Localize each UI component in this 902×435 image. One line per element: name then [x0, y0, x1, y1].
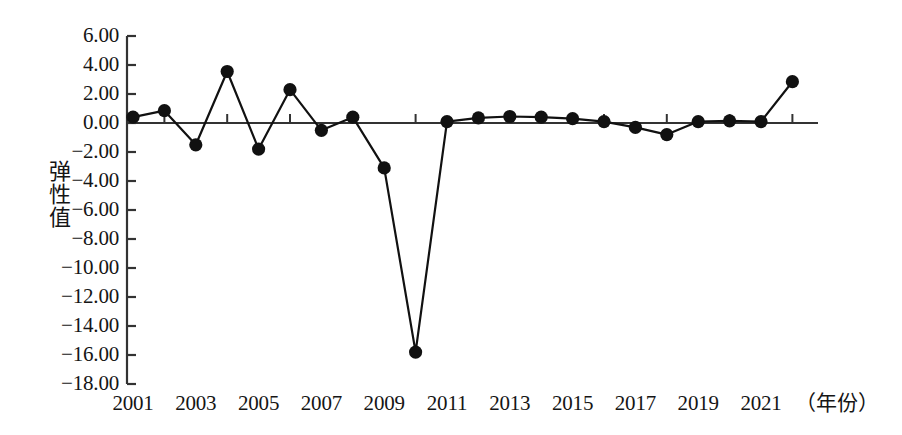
data-point-marker: [221, 65, 234, 78]
y-tick-label: −12.00: [15, 286, 119, 307]
data-point-marker: [597, 115, 610, 128]
data-point-marker: [786, 75, 799, 88]
y-tick-label: −16.00: [15, 344, 119, 365]
y-tick-label: −8.00: [15, 228, 119, 249]
y-tick-label: 0.00: [15, 112, 119, 133]
data-point-marker: [283, 83, 296, 96]
data-point-marker: [723, 114, 736, 127]
y-tick-label: −14.00: [15, 315, 119, 336]
data-point-marker: [440, 115, 453, 128]
line-chart-canvas: [0, 0, 902, 435]
y-axis-ticks: [127, 36, 136, 384]
axis-layer: [127, 36, 818, 384]
y-axis-title: 弹性值: [36, 160, 70, 229]
data-point-marker: [660, 128, 673, 141]
data-point-marker: [692, 115, 705, 128]
data-point-marker: [378, 161, 391, 174]
data-point-marker: [189, 138, 202, 151]
data-point-marker: [409, 346, 422, 359]
x-axis-unit-label: （年份）: [795, 393, 879, 414]
x-tick-label: 2021: [721, 393, 801, 414]
y-tick-label: 6.00: [15, 25, 119, 46]
data-point-marker: [252, 143, 265, 156]
data-point-marker: [346, 111, 359, 124]
y-tick-label: −10.00: [15, 257, 119, 278]
chart-figure: 6.004.002.000.00−2.00−4.00−6.00−8.00−10.…: [0, 0, 902, 435]
data-point-marker: [535, 111, 548, 124]
series-markers-elasticity: [126, 65, 799, 359]
data-point-marker: [472, 111, 485, 124]
data-point-marker: [629, 121, 642, 134]
y-tick-label: −2.00: [15, 141, 119, 162]
y-tick-label: 2.00: [15, 83, 119, 104]
data-series-layer: [126, 65, 799, 359]
data-point-marker: [754, 115, 767, 128]
data-point-marker: [566, 112, 579, 125]
series-line-elasticity: [133, 72, 792, 353]
data-point-marker: [315, 124, 328, 137]
data-point-marker: [503, 110, 516, 123]
data-point-marker: [158, 104, 171, 117]
y-tick-label: 4.00: [15, 54, 119, 75]
data-point-marker: [126, 111, 139, 124]
y-tick-label: −18.00: [15, 373, 119, 394]
